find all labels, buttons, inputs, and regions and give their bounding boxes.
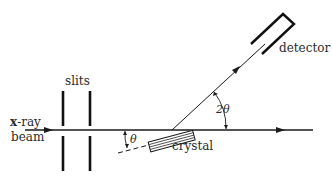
- reflected-beam: [172, 44, 265, 130]
- diffraction-diagram: slits x-ray beam detector crystal θ 2θ: [0, 0, 332, 178]
- xray-label: x-ray: [10, 115, 41, 129]
- theta-angle: [123, 131, 129, 148]
- crystal-label: crystal: [172, 139, 213, 153]
- transmitted-arrow-icon: [276, 127, 285, 133]
- incident-arrow-icon: [44, 127, 53, 133]
- detector-label: detector: [279, 41, 330, 55]
- incident-beam: [25, 127, 172, 133]
- slits: [63, 91, 90, 171]
- beam-label: beam: [11, 130, 45, 144]
- two-theta-label: 2θ: [215, 103, 230, 116]
- theta-label: θ: [130, 133, 137, 146]
- slits-label: slits: [65, 74, 90, 88]
